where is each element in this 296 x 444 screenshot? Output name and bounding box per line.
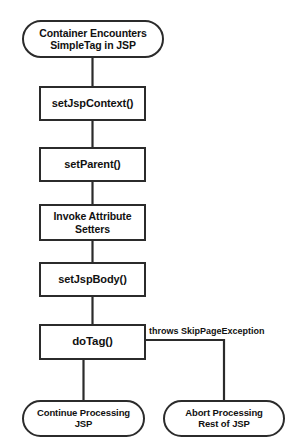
node-setparent-label: setParent() bbox=[60, 158, 124, 171]
node-setjspcontext: setJspContext() bbox=[39, 86, 146, 121]
node-abort-processing-label: Abort Processing Rest of JSP bbox=[181, 408, 267, 430]
edge-label-throws-skippageexception: throws SkipPageException bbox=[149, 326, 265, 336]
node-setjspbody-label: setJspBody() bbox=[54, 273, 130, 286]
connector-dotag-to-abort bbox=[146, 340, 224, 400]
node-abort-processing-rest-of-jsp: Abort Processing Rest of JSP bbox=[163, 400, 285, 437]
node-setparent: setParent() bbox=[39, 147, 146, 182]
node-setjspbody: setJspBody() bbox=[39, 262, 146, 297]
node-dotag: doTag() bbox=[39, 324, 146, 360]
node-invoke-attribute-setters-label: Invoke Attribute Setters bbox=[50, 210, 136, 234]
node-start-label: Container Encounters SimpleTag in JSP bbox=[35, 27, 151, 51]
node-dotag-label: doTag() bbox=[68, 335, 117, 348]
node-continue-processing-label: Continue Processing JSP bbox=[33, 408, 134, 430]
node-setjspcontext-label: setJspContext() bbox=[48, 97, 138, 110]
node-container-encounters-simpletag: Container Encounters SimpleTag in JSP bbox=[22, 20, 164, 58]
node-continue-processing-jsp: Continue Processing JSP bbox=[22, 400, 145, 437]
flowchart-canvas: Container Encounters SimpleTag in JSP se… bbox=[0, 0, 296, 444]
node-invoke-attribute-setters: Invoke Attribute Setters bbox=[39, 204, 146, 241]
